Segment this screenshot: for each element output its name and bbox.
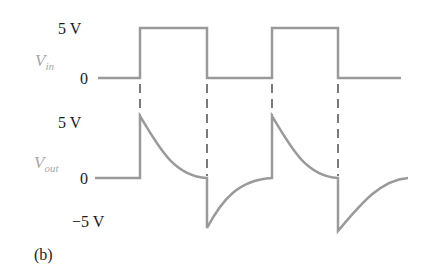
- vout-subscript: out: [44, 162, 58, 174]
- vout-label: Vout: [34, 154, 58, 177]
- rc-differentiator-waveforms: Vin Vout 5 V 0 5 V 0 −5 V (b): [0, 0, 438, 275]
- vout-symbol: V: [34, 153, 44, 172]
- vin-high-tick-label: 5 V: [58, 21, 81, 37]
- waveform-plot: [0, 0, 438, 275]
- vin-symbol: V: [35, 51, 45, 70]
- vin-waveform: [98, 28, 401, 78]
- vout-waveform: [95, 116, 408, 231]
- vout-zero-tick-label: 0: [80, 171, 88, 187]
- vin-subscript: in: [45, 60, 54, 72]
- vout-low-tick-label: −5 V: [72, 214, 104, 230]
- vin-zero-tick-label: 0: [80, 71, 88, 87]
- figure-caption: (b): [34, 247, 53, 263]
- transition-markers: [140, 84, 338, 176]
- vout-high-tick-label: 5 V: [58, 115, 81, 131]
- vin-label: Vin: [35, 52, 54, 75]
